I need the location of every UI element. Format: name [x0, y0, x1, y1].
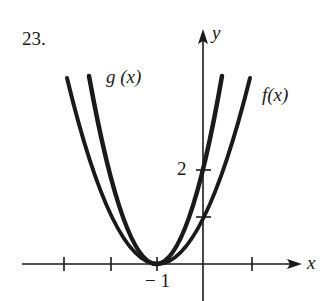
- g-label-name: g: [106, 66, 116, 87]
- f-label-arg: (x): [267, 84, 288, 105]
- graph-canvas: [0, 0, 334, 301]
- curve-g: [89, 76, 222, 264]
- x-tick-label-neg1: − 1: [145, 270, 170, 292]
- x-axis-label: x: [307, 252, 315, 274]
- g-label-arg: (x): [120, 66, 141, 87]
- y-tick-label-2: 2: [177, 158, 187, 180]
- f-curve-label: f(x): [262, 84, 288, 106]
- g-curve-label: g (x): [106, 66, 141, 88]
- y-axis-label: y: [212, 22, 220, 44]
